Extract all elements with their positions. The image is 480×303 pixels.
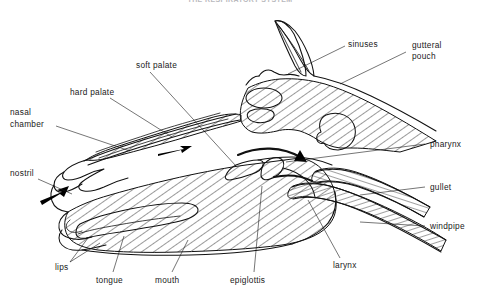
poll-crest-outline [259, 70, 299, 76]
label-mouth: mouth [155, 275, 179, 285]
label-nasal-chamber-line1: nasal [10, 107, 31, 117]
label-epiglottis: epiglottis [230, 275, 265, 285]
label-soft-palate: soft palate [136, 60, 177, 70]
muzzle-nostril-scroll [63, 160, 128, 191]
leader-hard-palate [110, 98, 172, 137]
nostril-opening [54, 172, 82, 192]
anatomy-figure: THE RESPIRATORY SYSTEM [0, 0, 480, 303]
label-nasal-chamber-line2: chamber [10, 119, 44, 129]
label-gutteral-pouch-line2: pouch [412, 51, 436, 61]
label-gullet: gullet [430, 182, 452, 192]
horse-head-diagram: sinuses gutteral pouch soft palate hard … [0, 0, 480, 303]
leader-gutteral-pouch [340, 52, 406, 84]
label-sinuses: sinuses [348, 39, 378, 49]
sinus-region-hatch [240, 79, 436, 152]
label-nostril: nostril [10, 168, 34, 178]
label-tongue: tongue [96, 275, 123, 285]
label-larynx: larynx [333, 260, 357, 270]
leader-nasal-chamber [56, 126, 130, 151]
label-windpipe: windpipe [429, 221, 465, 231]
airflow-nasal-arrow [158, 146, 192, 156]
label-lips: lips [55, 262, 68, 272]
label-gutteral-pouch-line1: gutteral [412, 40, 442, 50]
ear-left-inner [277, 24, 301, 72]
ears-group [275, 20, 314, 76]
label-hard-palate: hard palate [70, 87, 114, 97]
head-cross-section [51, 79, 436, 256]
label-pharynx: pharynx [430, 139, 462, 149]
